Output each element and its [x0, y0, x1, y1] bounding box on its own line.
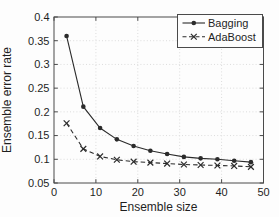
- series-layer: [64, 34, 254, 170]
- x-tick-label: 0: [51, 186, 57, 198]
- legend-label-bagging: Bagging: [208, 17, 248, 29]
- legend-label-adaboost: AdaBoost: [208, 31, 256, 43]
- x-tick-label: 10: [90, 186, 102, 198]
- x-tick-label: 50: [257, 186, 269, 198]
- bagging-marker: [64, 34, 69, 39]
- bagging-marker: [148, 148, 153, 153]
- x-tick-label: 20: [132, 186, 144, 198]
- bagging-marker: [232, 158, 237, 163]
- line-chart-canvas: 010203040500.050.10.150.20.250.30.350.4 …: [0, 0, 279, 217]
- legend: Bagging AdaBoost: [178, 15, 263, 48]
- y-tick-label: 0.05: [28, 177, 49, 189]
- y-tick-label: 0.1: [34, 153, 49, 165]
- x-tick-label: 40: [215, 186, 227, 198]
- y-tick-label: 0.15: [28, 129, 49, 141]
- bagging-marker: [98, 126, 103, 131]
- ensemble-error-figure: 010203040500.050.10.150.20.250.30.350.4 …: [0, 0, 279, 217]
- bagging-marker: [81, 104, 86, 109]
- y-tick-label: 0.35: [28, 35, 49, 47]
- y-tick-label: 0.3: [34, 58, 49, 70]
- x-axis-label: Ensemble size: [119, 200, 197, 214]
- bagging-marker: [198, 156, 203, 161]
- bagging-marker: [131, 144, 136, 149]
- bagging-marker: [249, 160, 254, 165]
- bagging-marker: [115, 137, 120, 142]
- bagging-series-line: [67, 36, 251, 162]
- bagging-marker: [182, 155, 187, 160]
- y-tick-label: 0.2: [34, 106, 49, 118]
- bagging-marker: [215, 157, 220, 162]
- x-tick-label: 30: [174, 186, 186, 198]
- y-tick-label: 0.25: [28, 82, 49, 94]
- y-axis-label: Ensemble error rate: [0, 47, 14, 153]
- legend-marker-bagging: [192, 21, 197, 26]
- bagging-marker: [165, 152, 170, 157]
- y-tick-label: 0.4: [34, 11, 49, 23]
